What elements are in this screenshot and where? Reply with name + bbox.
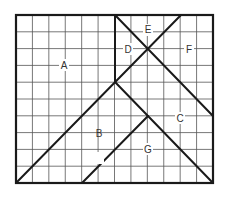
label-region-c: C <box>176 113 183 124</box>
label-region-b: B <box>96 128 103 139</box>
label-region-d: D <box>124 44 131 55</box>
label-region-e: E <box>145 24 152 35</box>
dissection-diagram: A B C D E F G <box>0 0 225 200</box>
label-region-f: F <box>186 44 192 55</box>
label-region-g: G <box>144 144 152 155</box>
label-region-a: A <box>61 60 68 71</box>
